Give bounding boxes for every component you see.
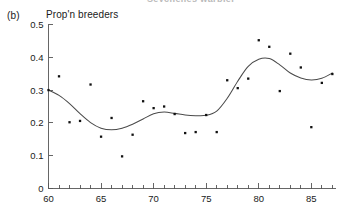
data-point [152,107,154,109]
data-point [289,53,291,55]
data-point [89,83,91,85]
data-point [110,117,112,119]
figure-panel-b: Seychelles warbler (b) Prop'n breeders 0… [0,0,348,221]
data-point [142,100,144,102]
ticks-group [49,25,333,189]
data-point [47,89,49,91]
data-point [79,120,81,122]
y-tick-label: 0.4 [30,52,43,63]
tick-labels-group: 00.10.20.30.40.5606570758085 [30,19,316,204]
y-tick-label: 0.5 [30,19,43,30]
data-point [195,131,197,133]
data-point [258,39,260,41]
axes-group [49,24,336,189]
data-point [247,77,249,79]
data-point [237,87,239,89]
data-point [100,136,102,138]
data-point [131,134,133,136]
y-tick-label: 0.2 [30,117,43,128]
data-point [121,155,123,157]
data-point [174,113,176,115]
data-point [300,66,302,68]
scatter-plot: 00.10.20.30.40.5606570758085 [0,0,348,221]
y-tick-label: 0.3 [30,85,43,96]
data-point [226,79,228,81]
y-tick-label: 0.1 [30,150,43,161]
data-point [163,105,165,107]
data-point [58,75,60,77]
x-tick-label: 60 [43,193,54,204]
data-point [321,82,323,84]
x-tick-label: 70 [148,193,159,204]
data-point [216,131,218,133]
data-point [68,121,70,123]
data-point [268,46,270,48]
x-tick-label: 75 [201,193,212,204]
x-tick-label: 85 [306,193,317,204]
data-point [205,114,207,116]
x-tick-label: 65 [96,193,107,204]
data-point [310,126,312,128]
data-point [184,132,186,134]
data-point [279,90,281,92]
data-point [331,73,333,75]
smoothed-fit-curve [49,58,333,130]
x-tick-label: 80 [253,193,264,204]
data-points-group [47,39,333,157]
